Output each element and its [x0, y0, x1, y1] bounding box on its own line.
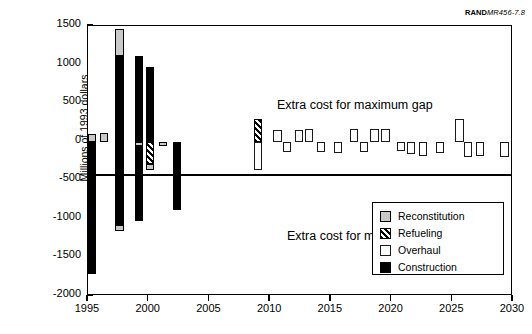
bar-overhaul	[283, 142, 291, 152]
bar-overhaul	[500, 142, 508, 157]
legend-item-overhaul: Overhaul	[380, 242, 503, 258]
bar-reconstitution	[159, 142, 167, 147]
legend-swatch-refueling	[380, 228, 391, 239]
bar-overhaul	[295, 130, 303, 142]
bar-refueling	[254, 119, 262, 142]
legend-item-refueling: Refueling	[380, 225, 503, 241]
bar-reconstitution	[115, 29, 123, 56]
bar-overhaul	[254, 142, 262, 171]
y-tick-label: 1500	[33, 17, 81, 29]
document-number: MR456-7.8	[487, 8, 525, 17]
y-tick-label: 0	[33, 133, 81, 145]
x-tick	[268, 295, 269, 301]
bar-construction	[173, 142, 181, 211]
x-tick	[86, 295, 87, 301]
bar-reconstitution	[100, 133, 108, 142]
x-tick	[208, 295, 209, 301]
bar-overhaul	[436, 142, 444, 153]
annotation-maximum-gap: Extra cost for maximum gap	[277, 98, 433, 112]
bar-overhaul	[350, 129, 358, 141]
bar-overhaul	[381, 129, 389, 142]
x-tick	[147, 295, 148, 301]
bar-construction	[135, 146, 143, 221]
bar-overhaul	[455, 119, 463, 141]
bar-construction	[135, 56, 143, 142]
x-tick	[451, 295, 452, 301]
legend: ReconstitutionRefuelingOverhaulConstruct…	[372, 202, 504, 275]
legend-label-construction: Construction	[398, 262, 457, 273]
bar-overhaul	[476, 142, 484, 157]
x-tick-label: 2015	[310, 302, 350, 314]
y-tick-label: 500	[33, 94, 81, 106]
legend-swatch-overhaul	[380, 245, 391, 256]
bar-overhaul	[370, 129, 378, 141]
legend-item-construction: Construction	[380, 259, 503, 275]
legend-label-refueling: Refueling	[398, 228, 442, 239]
legend-item-reconstitution: Reconstitution	[380, 208, 503, 224]
x-tick-label: 2005	[188, 302, 228, 314]
x-tick	[511, 295, 512, 301]
y-tick-label: -500	[33, 171, 81, 183]
x-tick	[390, 295, 391, 301]
x-tick-label: 2030	[492, 302, 532, 314]
source-credit: RANDMR456-7.8	[415, 8, 525, 20]
bar-reconstitution	[146, 164, 154, 169]
bar-overhaul	[273, 130, 281, 142]
bar-construction	[88, 142, 96, 275]
bar-overhaul	[397, 142, 405, 152]
bar-reconstitution	[115, 225, 123, 230]
y-tick-label: -2000	[33, 287, 81, 299]
x-tick-label: 2020	[371, 302, 411, 314]
y-tick-label: -1000	[33, 210, 81, 222]
bar-overhaul	[360, 142, 368, 152]
legend-label-reconstitution: Reconstitution	[398, 211, 465, 222]
zero-baseline	[88, 174, 511, 175]
bar-overhaul	[464, 142, 472, 157]
x-tick-label: 2025	[431, 302, 471, 314]
x-tick	[329, 295, 330, 301]
x-tick-label: 2000	[128, 302, 168, 314]
bar-overhaul	[334, 142, 342, 153]
y-tick-label: 1000	[33, 56, 81, 68]
legend-swatch-construction	[380, 262, 391, 273]
bar-overhaul	[317, 142, 325, 152]
bar-overhaul	[419, 142, 427, 156]
x-tick-label: 1995	[67, 302, 107, 314]
legend-swatch-reconstitution	[380, 211, 391, 222]
bar-overhaul	[407, 142, 415, 155]
bar-refueling	[146, 142, 154, 165]
x-tick-label: 2010	[249, 302, 289, 314]
bar-construction	[146, 67, 154, 142]
bar-overhaul	[305, 129, 313, 142]
bar-reconstitution	[88, 134, 96, 142]
bar-construction	[115, 142, 123, 226]
chart-root: { "credit": { "brand": "RAND", "document…	[0, 0, 532, 334]
legend-label-overhaul: Overhaul	[398, 245, 441, 256]
bar-construction	[115, 56, 123, 141]
bar-reconstitution	[135, 142, 143, 147]
y-tick-label: -1500	[33, 248, 81, 260]
rand-brand: RAND	[465, 8, 487, 17]
